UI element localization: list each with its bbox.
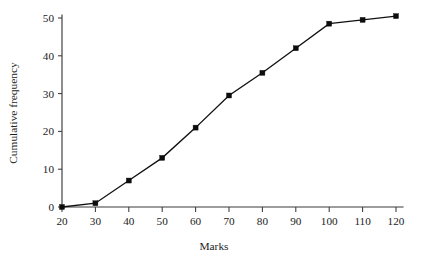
y-tick-label: 10 [43,163,55,175]
x-tick-label: 40 [123,215,135,227]
y-tick-marks [58,18,62,207]
x-tick-label: 50 [157,215,169,227]
data-point-marker [360,17,365,22]
x-tick-label: 90 [290,215,302,227]
x-axis: 2030405060708090100110120 [56,207,404,227]
x-tick-label: 30 [90,215,102,227]
data-point-marker [327,21,332,26]
data-point-marker [293,46,298,51]
data-point-marker [93,201,98,206]
x-tick-label: 120 [388,215,405,227]
y-axis: 01020304050 [43,12,62,213]
data-point-marker [260,70,265,75]
data-point-marker [160,155,165,160]
data-point-marker [60,205,65,210]
x-tick-label: 20 [56,215,68,227]
data-point-marker [227,93,232,98]
y-tick-label: 20 [43,125,55,137]
y-tick-label: 50 [43,12,55,24]
y-tick-label: 30 [43,88,55,100]
x-tick-label: 110 [354,215,371,227]
x-tick-label: 60 [190,215,202,227]
series-markers [60,14,399,210]
y-tick-label: 40 [43,50,55,62]
series-line [62,16,396,207]
x-tick-marks [62,207,396,212]
data-point-marker [394,14,399,19]
x-tick-labels: 2030405060708090100110120 [56,215,404,227]
data-point-marker [126,178,131,183]
data-series-cumulative-frequency [60,14,399,210]
data-point-marker [193,125,198,130]
y-axis-title: Cumulative frequency [7,62,19,164]
x-tick-label: 80 [257,215,269,227]
y-tick-labels: 01020304050 [43,12,55,213]
chart-canvas: 01020304050 2030405060708090100110120 Ma… [0,0,427,256]
y-tick-label: 0 [48,201,54,213]
x-tick-label: 70 [223,215,235,227]
x-tick-label: 100 [321,215,338,227]
x-axis-title: Marks [199,240,229,252]
cumulative-frequency-chart: 01020304050 2030405060708090100110120 Ma… [0,0,427,256]
